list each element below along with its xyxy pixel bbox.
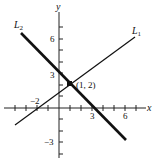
y-tick-label-6: 6 xyxy=(50,34,55,44)
x-tick-label-3: 3 xyxy=(90,111,95,121)
coordinate-plane: y x −2 3 6 6 3 −3 (1, 2) L2 L1 xyxy=(0,0,154,163)
y-axis-label: y xyxy=(55,1,61,12)
line-l1-label: L1 xyxy=(131,25,142,38)
line-l2-label: L2 xyxy=(13,19,24,32)
x-axis-label: x xyxy=(146,102,152,113)
x-tick-label-neg2: −2 xyxy=(30,96,40,106)
y-tick-label-3: 3 xyxy=(50,70,55,80)
line-l2 xyxy=(21,33,126,140)
intersection-point xyxy=(67,81,72,86)
x-tick-label-6: 6 xyxy=(123,111,128,121)
intersection-label: (1, 2) xyxy=(76,80,96,90)
line-l1 xyxy=(15,37,135,125)
y-tick-label-neg3: −3 xyxy=(44,137,54,147)
